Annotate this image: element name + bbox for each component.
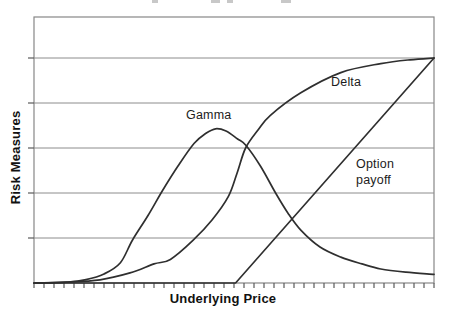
plot-frame: [34, 17, 434, 283]
option-payoff-series-label: Option payoff: [356, 156, 394, 188]
gamma-curve: [34, 129, 434, 283]
delta-series-label: Delta: [331, 74, 361, 90]
gamma-series-label: Gamma: [186, 107, 231, 123]
y-axis-title: Risk Measures: [8, 103, 23, 213]
option-greeks-chart: Risk Measures Underlying Price Gamma Del…: [0, 0, 449, 317]
x-axis-title: Underlying Price: [108, 291, 338, 306]
